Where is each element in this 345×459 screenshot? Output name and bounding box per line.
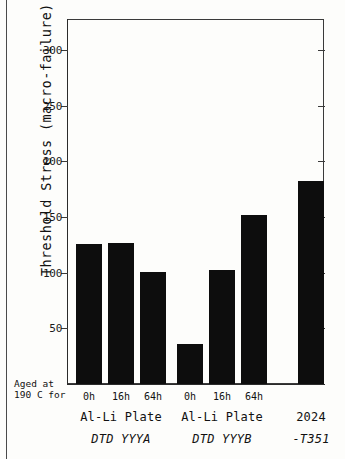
bar-category-label: 64h (245, 391, 263, 402)
y-tick-mark-right (318, 161, 325, 162)
y-tick-mark-left (61, 161, 68, 162)
group-name-label: Al-Li Plate (181, 410, 263, 424)
bar (140, 272, 166, 384)
y-axis-line (67, 19, 68, 385)
aged-annotation: Aged at 190 C for (14, 378, 65, 400)
x-axis-line (67, 384, 325, 385)
group-name-label: Al-Li Plate (80, 410, 162, 424)
y-axis-title: Threshold Stress (macro-failure) --MPa-- (38, 0, 54, 276)
aged-line-2: 190 C for (14, 389, 65, 400)
bar (298, 181, 324, 384)
bar-category-label: 16h (112, 391, 130, 402)
group-designation-label: -T351 (292, 432, 329, 446)
y-tick-mark-left (61, 328, 68, 329)
y-tick-mark-right (318, 50, 325, 51)
plot-frame (67, 19, 324, 384)
y-tick-mark-left (61, 106, 68, 107)
bar (177, 344, 203, 384)
bar (108, 243, 134, 384)
y-tick-mark-left (61, 217, 68, 218)
bar-category-label: 0h (83, 391, 95, 402)
y-tick-mark-right (318, 106, 325, 107)
y-tick-mark-left (61, 273, 68, 274)
scan-page-edge (6, 0, 7, 459)
group-name-label: 2024 (296, 410, 326, 424)
group-designation-label: DTD YYYB (192, 432, 251, 446)
bar (76, 244, 102, 384)
bar-category-label: 16h (213, 391, 231, 402)
bar (241, 215, 267, 384)
y-tick-mark-left (61, 50, 68, 51)
bar-category-label: 0h (184, 391, 196, 402)
aged-line-1: Aged at (14, 378, 54, 389)
y-tick-label: 50 (22, 322, 62, 335)
chart-page: 30025020015010050 0h16h64h0h16h64hAl-Li … (0, 0, 345, 459)
group-designation-label: DTD YYYA (91, 432, 150, 446)
bar (209, 270, 235, 384)
bar-category-label: 64h (144, 391, 162, 402)
